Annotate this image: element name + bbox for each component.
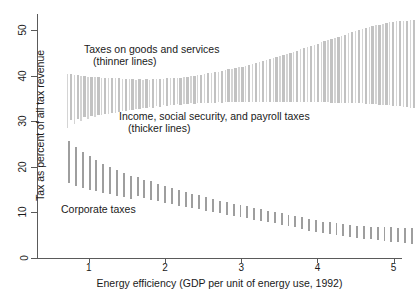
annotation-goods-line2: (thinner lines) xyxy=(84,55,219,67)
range-bar xyxy=(177,78,178,104)
range-bar xyxy=(75,147,77,186)
range-bar xyxy=(308,219,310,231)
range-bar xyxy=(131,79,133,110)
range-bar xyxy=(163,79,164,105)
range-bar xyxy=(410,20,411,108)
range-bar xyxy=(108,78,109,114)
range-bar xyxy=(225,70,226,102)
range-bar xyxy=(241,67,243,102)
range-bar xyxy=(186,77,188,105)
range-bar xyxy=(371,26,373,104)
range-bar xyxy=(362,29,363,104)
range-bar xyxy=(156,79,157,106)
range-bar xyxy=(396,21,397,105)
range-bar xyxy=(173,78,175,105)
y-tick-label-20: 20 xyxy=(0,162,28,172)
range-bar xyxy=(219,201,221,214)
range-bar xyxy=(231,69,232,102)
range-bar xyxy=(183,77,184,104)
x-tick-label-4: 4 xyxy=(307,262,327,273)
range-bar xyxy=(70,74,72,120)
x-tick-label-3: 3 xyxy=(231,262,251,273)
y-tick-label-40: 40 xyxy=(0,71,28,81)
range-bar xyxy=(266,60,267,101)
range-bar xyxy=(262,61,264,102)
range-bar xyxy=(116,170,118,196)
range-bar xyxy=(157,184,159,202)
range-bar xyxy=(390,227,392,241)
range-bar xyxy=(94,77,95,117)
range-bar xyxy=(238,67,239,101)
annotation-goods-line1: Taxes on goods and services xyxy=(84,43,219,55)
range-bar xyxy=(122,79,123,111)
range-bar xyxy=(115,78,116,112)
range-bar xyxy=(179,78,181,105)
range-bar xyxy=(301,217,303,228)
range-bar xyxy=(281,213,283,224)
x-tick-label-5: 5 xyxy=(384,262,404,273)
range-bar xyxy=(67,74,68,127)
range-bar xyxy=(246,206,248,218)
y-tick-label-0: 0 xyxy=(0,253,28,263)
range-bar xyxy=(118,78,120,112)
range-bar xyxy=(212,199,214,212)
range-bar xyxy=(349,225,351,237)
range-bar xyxy=(351,32,353,103)
range-bar xyxy=(363,226,365,239)
range-bar xyxy=(403,21,404,107)
range-bar xyxy=(218,72,219,103)
range-bar xyxy=(68,141,70,183)
range-bar xyxy=(279,56,280,102)
range-bar xyxy=(375,25,376,104)
range-bar xyxy=(314,45,315,102)
range-bar xyxy=(255,63,257,102)
range-bar xyxy=(214,72,216,103)
range-bar xyxy=(227,69,229,102)
annotation-corporate-taxes: Corporate taxes xyxy=(61,203,136,215)
range-bar xyxy=(74,75,75,124)
annotation-income-line1: Income, social security, and payroll tax… xyxy=(119,110,310,122)
range-bar xyxy=(382,24,383,105)
range-bar xyxy=(97,77,99,115)
range-bar xyxy=(87,77,88,119)
range-bar xyxy=(170,78,171,104)
range-bar xyxy=(341,36,342,103)
range-bar xyxy=(77,75,79,119)
range-bar xyxy=(260,209,262,221)
range-bar xyxy=(253,208,255,220)
range-bar xyxy=(129,79,130,110)
range-bar xyxy=(101,78,102,116)
range-bar xyxy=(317,44,319,102)
range-bar xyxy=(365,28,367,104)
range-bar xyxy=(166,78,168,105)
range-bar xyxy=(135,80,136,109)
range-bar xyxy=(252,64,253,102)
range-bar xyxy=(159,79,161,107)
range-bar xyxy=(392,22,394,106)
range-bar xyxy=(389,22,390,105)
range-bar xyxy=(248,65,250,102)
range-bar xyxy=(300,49,301,101)
range-bar xyxy=(138,79,140,109)
range-bar xyxy=(356,226,358,238)
annotation-income-line2: (thicker lines) xyxy=(119,122,310,134)
range-bar xyxy=(329,222,331,234)
range-bar xyxy=(109,167,111,194)
range-bar xyxy=(95,160,97,191)
range-bar xyxy=(150,181,152,200)
range-bar xyxy=(355,31,356,103)
range-bar xyxy=(273,58,274,101)
range-bar xyxy=(404,228,406,243)
y-tick-label-50: 50 xyxy=(0,25,28,35)
range-bar xyxy=(293,52,294,102)
range-bar xyxy=(370,227,372,240)
range-bar xyxy=(234,68,236,102)
range-bar xyxy=(321,42,322,102)
range-bar xyxy=(193,76,195,104)
range-bar xyxy=(198,195,200,209)
range-bar xyxy=(142,80,143,108)
range-bar xyxy=(384,227,386,240)
range-bar xyxy=(378,25,380,105)
x-axis-title: Energy efficiency (GDP per unit of energ… xyxy=(37,278,402,289)
range-bar xyxy=(330,39,332,102)
